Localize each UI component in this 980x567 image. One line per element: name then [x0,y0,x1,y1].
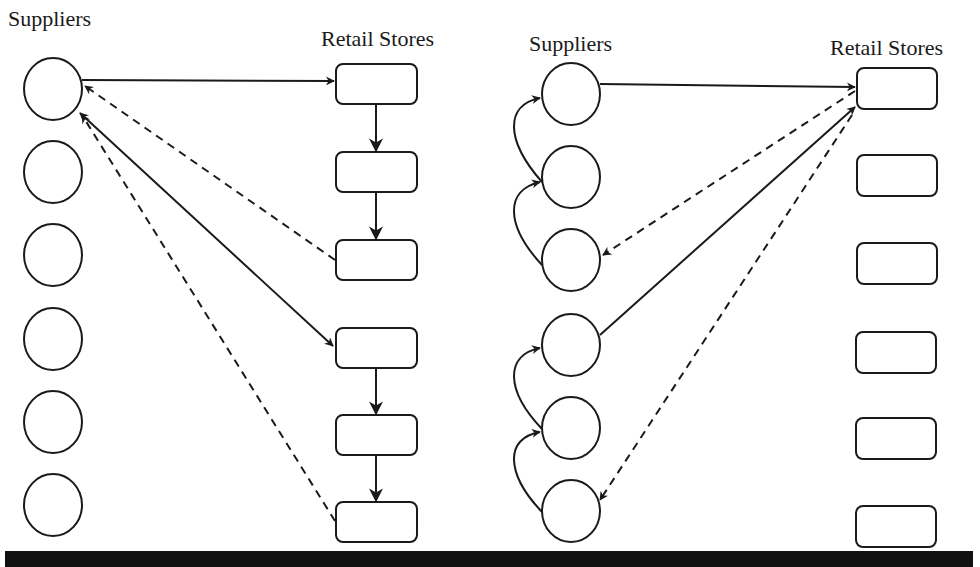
right-curve-s5-to-s4 [514,348,542,429]
bottom-dark-bar [5,551,973,567]
right-store-1 [857,68,937,109]
right-supplier-2 [542,146,600,208]
left-suppliers [24,58,82,536]
right-store-2 [857,155,937,196]
right-curve-s6-to-s5 [514,432,542,512]
right-flow-s4-to-store1 [600,107,855,335]
left-store-4 [336,328,417,368]
right-stores [856,68,937,547]
left-supplier-6 [24,474,82,536]
right-supplier-6 [542,480,600,542]
right-flow-s1-to-store1 [600,84,855,87]
left-flow-s1-store4-bidirectional [80,113,333,346]
right-curve-s2-to-s1 [514,98,542,182]
right-store-5 [856,418,936,459]
right-flows [514,84,855,512]
supply-network-diagram [0,0,980,567]
left-supplier-2 [24,141,82,203]
left-return-store6-to-s1 [82,115,335,521]
left-store-2 [336,152,417,192]
right-supplier-4 [542,314,600,376]
right-suppliers [542,63,600,542]
left-supplier-1 [24,58,82,120]
right-store-3 [857,243,937,284]
right-dashed-store1-to-s3 [603,91,855,255]
left-supplier-4 [24,308,82,370]
right-store-4 [856,332,936,373]
right-supplier-1 [542,63,600,125]
right-supplier-3 [542,229,600,291]
left-store-5 [336,415,417,455]
left-supplier-5 [24,391,82,453]
right-curve-s3-to-s2 [514,182,542,265]
left-supplier-3 [24,224,82,286]
right-store-6 [856,506,936,547]
right-supplier-5 [542,397,600,459]
right-dashed-store1-to-s6 [600,115,852,500]
left-flow-s1-to-store1 [82,80,334,81]
left-store-3 [336,240,417,280]
left-store-1 [336,64,417,104]
left-store-6 [336,502,417,542]
left-flows [80,80,376,521]
